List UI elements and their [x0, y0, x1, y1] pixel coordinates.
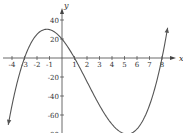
x-axis-arrow-icon [170, 56, 176, 60]
x-tick-label: -2 [34, 61, 41, 69]
x-tick-label: 2 [85, 61, 89, 69]
curve-left-arrow-icon [7, 120, 11, 125]
x-tick-label: 1 [72, 61, 76, 69]
curve-right-arrow-icon [165, 28, 169, 33]
x-tick-label: 4 [110, 61, 115, 69]
x-tick-label: 5 [122, 61, 126, 69]
axes [3, 8, 176, 133]
x-tick-label: -4 [9, 61, 16, 69]
x-tick-label: 7 [147, 61, 151, 69]
x-tick-label: -1 [46, 61, 53, 69]
y-axis-label: y [63, 1, 69, 10]
y-tick-label: -80 [48, 131, 59, 134]
y-tick-label: -60 [48, 112, 59, 120]
cubic-function-graph: -4-3-2-112345678 4020-20-40-60-80 x y [0, 0, 183, 133]
x-tick-label: 3 [97, 61, 101, 69]
x-tick-label: 6 [135, 61, 140, 69]
x-axis-label: x [179, 54, 183, 63]
y-tick-label: -20 [48, 74, 59, 82]
y-tick-label: 40 [50, 17, 59, 25]
y-tick-label: -40 [48, 93, 59, 101]
cubic-curve [8, 28, 167, 133]
y-tick-label: 20 [50, 36, 59, 44]
y-ticks: 4020-20-40-60-80 [48, 17, 64, 134]
